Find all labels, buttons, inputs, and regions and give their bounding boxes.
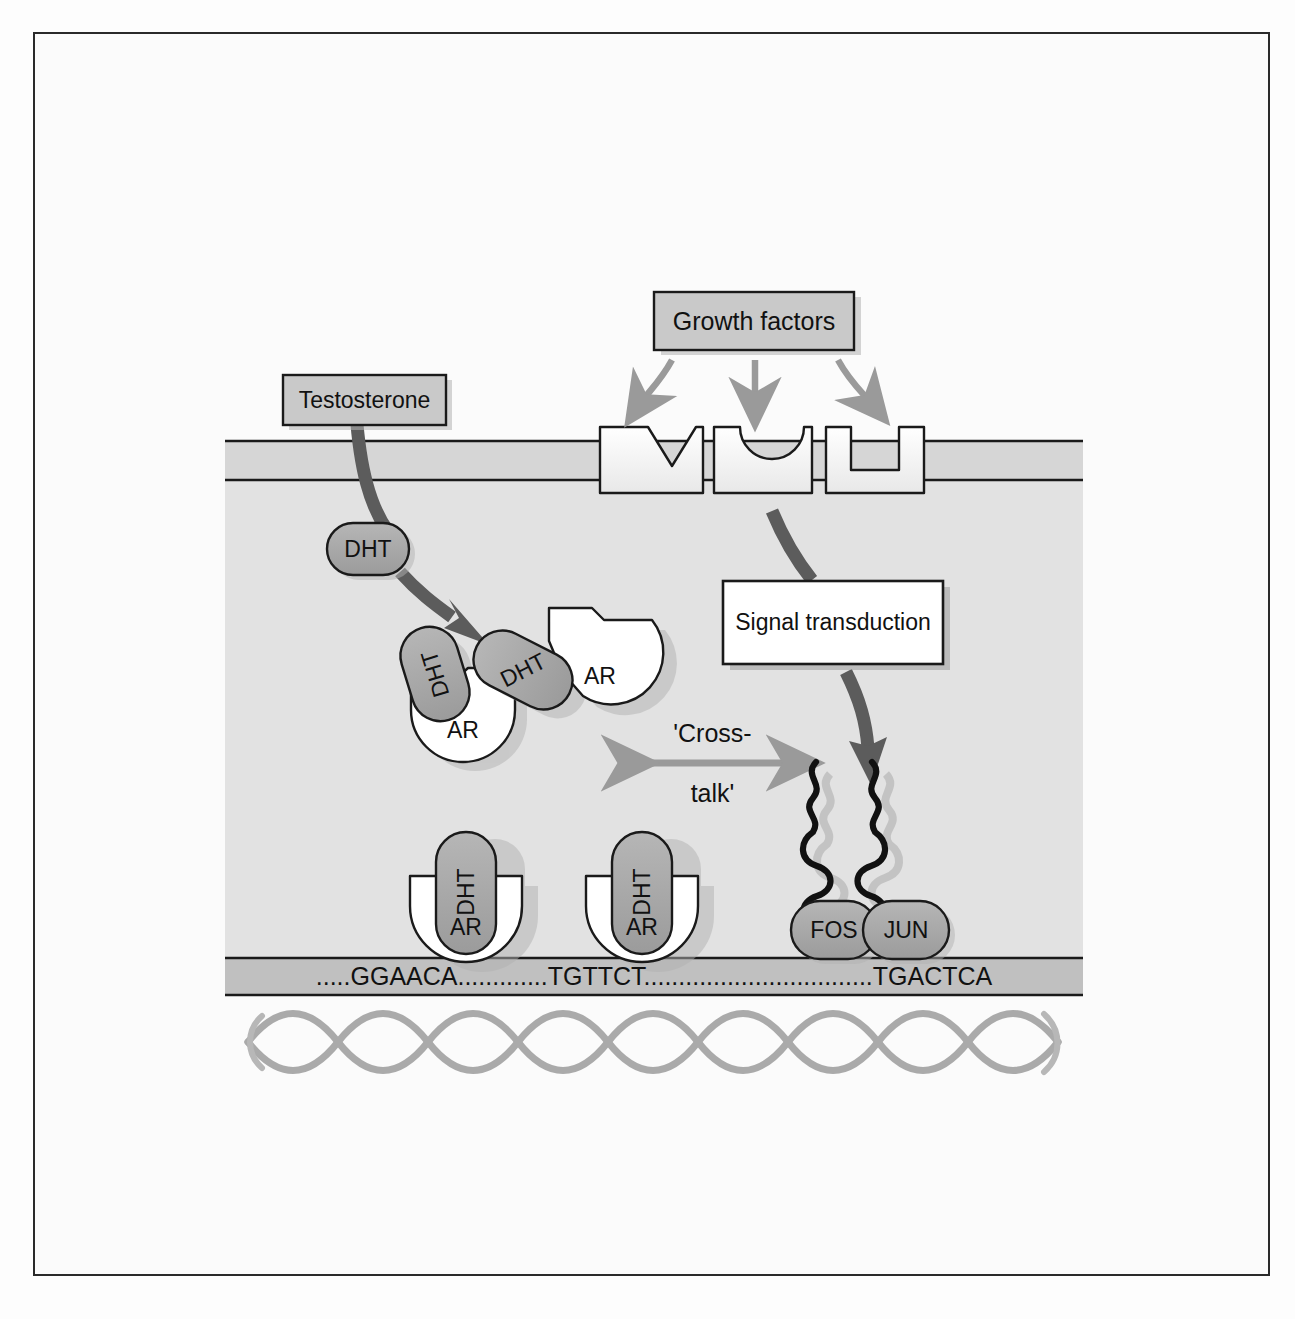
u-notch-receptor[interactable]	[714, 427, 812, 493]
dna-sequence-label: .....GGAACA.............TGTTCT..........…	[225, 958, 1083, 995]
signal-transduction-label: Signal transduction	[723, 581, 943, 664]
dna-double-helix	[248, 1014, 1058, 1073]
ar-dna-right-label: AR	[612, 913, 672, 941]
figure-panel: Growth factors Testosterone Signal trans…	[0, 0, 1295, 1319]
crosstalk-label-line2: talk'	[630, 778, 795, 808]
gf-arrow-right	[838, 360, 872, 404]
crosstalk-label-line1: 'Cross-	[630, 718, 795, 748]
ar-dna-left-label: AR	[436, 913, 496, 941]
ar-cyto-right-label: AR	[570, 662, 630, 690]
v-notch-receptor[interactable]	[600, 427, 703, 493]
dht-free-label: DHT	[327, 523, 409, 575]
growth-factors-label: Growth factors	[654, 292, 854, 350]
gf-arrow-left	[640, 360, 672, 404]
diagram-canvas	[0, 0, 1295, 1319]
ar-cyto-left-label: AR	[433, 716, 493, 744]
jun-label: JUN	[863, 901, 949, 959]
testosterone-label: Testosterone	[283, 375, 446, 425]
